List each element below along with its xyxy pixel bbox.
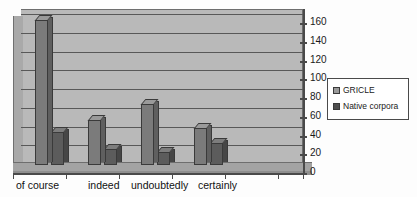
x-axis-tick xyxy=(66,173,67,179)
bar-front-face xyxy=(35,20,48,165)
y-axis-tick xyxy=(300,136,307,138)
gridline xyxy=(21,89,303,90)
y-axis-tick xyxy=(300,79,307,81)
x-axis-label-of-course: of course xyxy=(16,180,59,191)
y-axis-tick xyxy=(300,98,307,100)
plot-area xyxy=(13,9,303,175)
legend-item-1: Native corpora xyxy=(333,102,398,111)
legend-swatch-native-corpora xyxy=(333,103,340,110)
bar-indeed-gricle xyxy=(88,120,101,165)
bar-front-face xyxy=(88,120,101,165)
y-axis-label: 20 xyxy=(310,148,321,158)
y-axis-label: 40 xyxy=(310,130,321,140)
bar-chart-figure: 020406080100120140160 of courseindeedund… xyxy=(0,0,417,197)
bar-front-face xyxy=(141,104,154,165)
y-axis-tick xyxy=(300,42,307,44)
chart-left-wall xyxy=(13,16,23,172)
y-axis-label: 160 xyxy=(310,17,327,27)
x-axis-tick xyxy=(278,173,279,179)
legend-swatch-gricle xyxy=(333,87,340,94)
bar-side-face xyxy=(154,101,159,162)
x-axis-label-certainly: certainly xyxy=(198,180,237,191)
y-axis-tick xyxy=(300,61,307,63)
gridline xyxy=(21,52,303,53)
y-axis-tick xyxy=(300,117,307,119)
x-axis-tick xyxy=(13,173,14,179)
x-axis-tick xyxy=(303,173,304,179)
bar-side-face xyxy=(207,125,212,162)
legend-label-gricle: GRICLE xyxy=(343,86,375,95)
x-axis-line xyxy=(13,173,305,175)
gridline xyxy=(21,70,303,71)
y-axis-label: 140 xyxy=(310,36,327,46)
y-axis-tick xyxy=(300,154,307,156)
y-axis-label: 60 xyxy=(310,111,321,121)
chart-legend: GRICLE Native corpora xyxy=(327,78,409,120)
y-axis-label: 120 xyxy=(310,55,327,65)
bar-side-face xyxy=(64,129,69,162)
legend-label-native-corpora: Native corpora xyxy=(343,102,398,111)
bar-of-course-gricle xyxy=(35,20,48,165)
x-axis-label-indeed: indeed xyxy=(88,180,120,191)
y-axis-label: 100 xyxy=(310,73,327,83)
bar-undoubtedly-gricle xyxy=(141,104,154,165)
gridline xyxy=(21,14,303,15)
y-axis-label: 0 xyxy=(310,167,316,177)
bar-side-face xyxy=(48,17,53,162)
bar-side-face xyxy=(223,140,228,162)
gridline xyxy=(21,33,303,34)
y-axis-tick xyxy=(300,23,307,25)
bar-front-face xyxy=(194,128,207,165)
x-axis-label-undoubtedly: undoubtedly xyxy=(131,180,188,191)
legend-item-0: GRICLE xyxy=(333,86,375,95)
gridline xyxy=(21,108,303,109)
bar-side-face xyxy=(101,117,106,162)
y-axis-label: 80 xyxy=(310,92,321,102)
bar-certainly-gricle xyxy=(194,128,207,165)
y-axis-line xyxy=(303,9,305,175)
